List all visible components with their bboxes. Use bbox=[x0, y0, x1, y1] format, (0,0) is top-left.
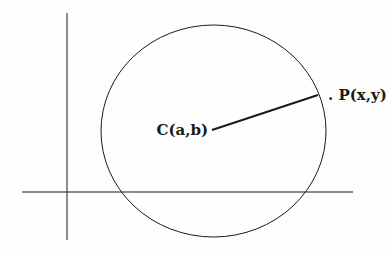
point-label: . P(x,y) bbox=[328, 86, 387, 104]
radius-line bbox=[212, 95, 318, 130]
diagram-svg: C(a,b) . P(x,y) bbox=[0, 0, 390, 257]
circle bbox=[101, 25, 326, 237]
center-label: C(a,b) bbox=[156, 121, 208, 139]
circle-diagram: C(a,b) . P(x,y) bbox=[0, 0, 390, 257]
